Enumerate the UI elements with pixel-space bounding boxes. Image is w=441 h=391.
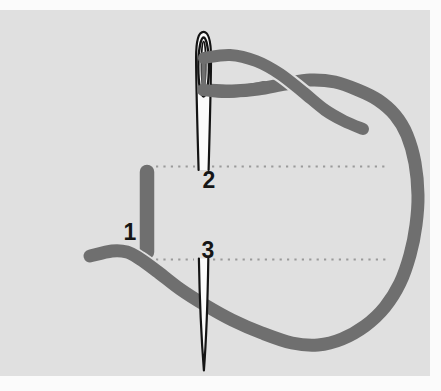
- stitch-diagram: 1 2 3: [0, 0, 441, 391]
- label-point-3: 3: [202, 237, 215, 263]
- label-point-2: 2: [203, 167, 216, 193]
- thread-eye-exit: [203, 87, 264, 92]
- label-point-1: 1: [124, 219, 137, 245]
- stitch-diagram-figure: 1 2 3: [0, 0, 441, 391]
